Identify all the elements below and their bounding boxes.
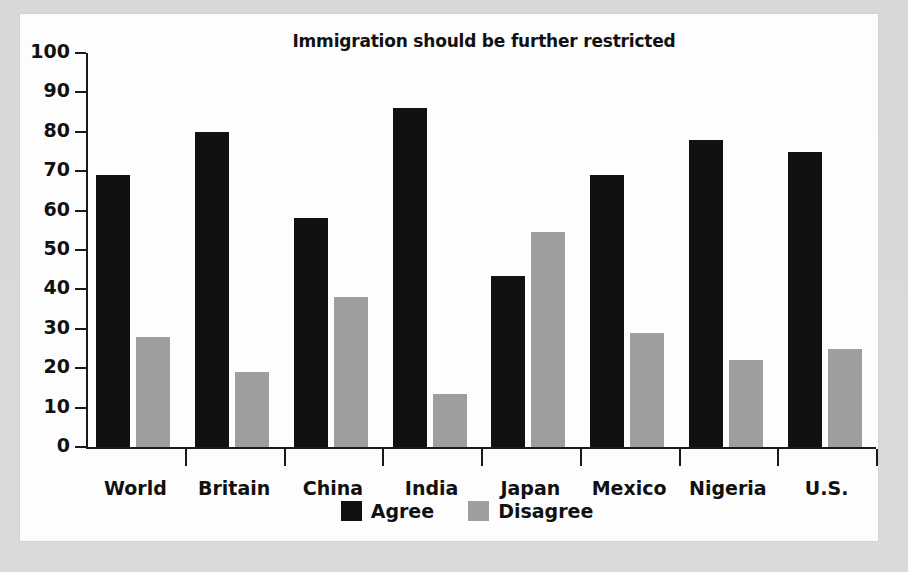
x-axis-label-mexico: Mexico [580,477,679,499]
x-axis-group-separator [777,449,779,466]
x-axis-group-separator [185,449,187,466]
bar-china-agree [294,218,328,447]
chart-legend: AgreeDisagree [20,501,878,521]
bar-mexico-disagree [630,333,664,447]
plot-area: 0102030405060708090100 WorldBritainChina… [86,53,878,447]
x-axis-group-separator [284,449,286,466]
bar-india-disagree [433,394,467,447]
y-axis-tick-label: 70 [44,159,70,179]
y-axis-tick: 70 [75,170,86,172]
y-axis-tick: 20 [75,367,86,369]
y-axis-tick-label: 10 [44,396,70,416]
bar-japan-agree [491,276,525,447]
y-axis-tick-label: 20 [44,356,70,376]
y-axis-tick-label: 30 [44,317,70,337]
y-axis-tick: 10 [75,407,86,409]
bar-britain-agree [195,132,229,447]
legend-item-disagree: Disagree [468,501,593,521]
y-axis-tick: 50 [75,249,86,251]
chart-panel: Immigration should be further restricted… [20,14,878,541]
x-axis-label-world: World [86,477,185,499]
bar-us-agree [788,152,822,448]
x-axis-group-separator [580,449,582,466]
bar-nigeria-disagree [729,360,763,447]
chart-title: Immigration should be further restricted [20,31,878,51]
y-axis-tick-label: 80 [44,120,70,140]
y-axis-tick: 100 [75,52,86,54]
x-axis-label-us: U.S. [777,477,876,499]
y-axis-tick-label: 50 [44,238,70,258]
bar-mexico-agree [590,175,624,447]
bar-world-disagree [136,337,170,447]
y-axis-tick-label: 60 [44,199,70,219]
y-axis-line [86,53,88,447]
bar-japan-disagree [531,232,565,447]
bar-china-disagree [334,297,368,447]
y-axis-tick: 90 [75,91,86,93]
x-axis-label-britain: Britain [185,477,284,499]
legend-label-agree: Agree [371,501,434,521]
x-axis-label-china: China [284,477,383,499]
y-axis-tick: 0 [75,446,86,448]
x-axis-label-nigeria: Nigeria [679,477,778,499]
y-axis-tick: 60 [75,210,86,212]
y-axis-tick-label: 40 [44,277,70,297]
x-axis-group-separator [382,449,384,466]
legend-swatch-agree [341,501,362,521]
x-axis-group-separator [679,449,681,466]
bar-britain-disagree [235,372,269,447]
legend-label-disagree: Disagree [498,501,593,521]
x-axis-label-japan: Japan [481,477,580,499]
figure-root: Immigration should be further restricted… [0,0,908,572]
legend-swatch-disagree [468,501,489,521]
bar-world-agree [96,175,130,447]
legend-item-agree: Agree [341,501,434,521]
bar-india-agree [393,108,427,447]
x-axis-group-separator [481,449,483,466]
x-axis-label-india: India [382,477,481,499]
x-axis-group-separator [876,449,878,466]
y-axis-tick: 40 [75,288,86,290]
y-axis-tick-label: 100 [30,41,70,61]
bar-us-disagree [828,349,862,448]
y-axis-tick-label: 90 [44,80,70,100]
y-axis-tick: 80 [75,131,86,133]
y-axis-tick: 30 [75,328,86,330]
bar-nigeria-agree [689,140,723,447]
y-axis-tick-label: 0 [57,435,70,455]
